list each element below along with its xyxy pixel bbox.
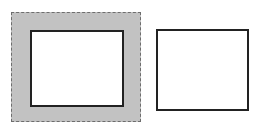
right-white-square <box>156 29 249 111</box>
inner-white-square <box>30 30 124 107</box>
figure-canvas <box>0 0 261 128</box>
